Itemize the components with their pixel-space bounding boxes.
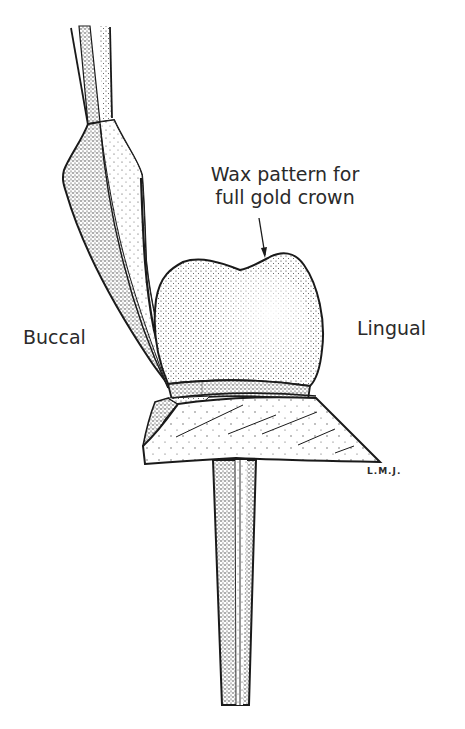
die-base xyxy=(143,393,380,464)
annotation-label: Wax pattern for full gold crown xyxy=(0,163,465,209)
artist-signature: L.M.J. xyxy=(367,466,401,476)
die-pin xyxy=(213,460,256,705)
annotation-line-2: full gold crown xyxy=(105,186,465,209)
annotation-arrow xyxy=(259,218,267,258)
wax-pattern-crown xyxy=(155,253,323,400)
dental-diagram-svg xyxy=(0,0,465,729)
illustration: Wax pattern for full gold crown Buccal L… xyxy=(0,0,465,729)
lingual-label: Lingual xyxy=(357,317,426,339)
buccal-label: Buccal xyxy=(23,326,86,348)
annotation-line-1: Wax pattern for xyxy=(105,163,465,186)
